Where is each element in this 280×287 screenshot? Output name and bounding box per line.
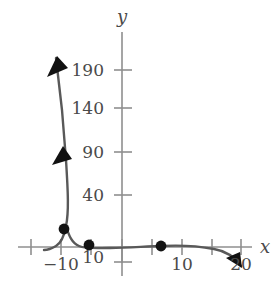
y-tick-label-190: 190: [52, 62, 104, 79]
y-tick-label-40: 40: [62, 187, 104, 204]
chart-figure: 190 140 90 40 10 −10 10 20 y x: [0, 0, 280, 287]
x-axis-label: x: [260, 238, 270, 256]
y-axis-ticks: [114, 70, 132, 262]
x-tick-label-10: 10: [161, 256, 203, 273]
y-tick-label-90: 90: [62, 144, 104, 161]
x-tick-label-minus10: −10: [34, 256, 88, 273]
marker-point-a: [59, 224, 70, 235]
y-tick-label-140: 140: [52, 100, 104, 117]
plot-canvas: [0, 0, 280, 287]
marker-point-c: [156, 241, 167, 252]
y-axis-label: y: [117, 8, 127, 26]
x-tick-label-20: 20: [220, 256, 262, 273]
